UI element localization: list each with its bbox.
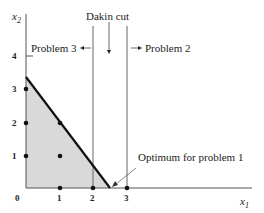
optimum-arrow xyxy=(116,168,136,184)
problem-2-label: Problem 2 xyxy=(145,42,191,54)
dakin-cut-label: Dakin cut xyxy=(86,10,129,22)
branch-and-bound-diagram: x2 x1 4 3 2 1 0 1 2 3 Dakin cut Problem … xyxy=(0,0,264,213)
y-tick-label-2: 2 xyxy=(12,118,17,128)
x-tick-label-3: 3 xyxy=(124,193,129,203)
problem-2-arrowhead xyxy=(138,46,142,50)
y-axis-label: x2 xyxy=(11,10,21,25)
dakin-cut-arrowhead xyxy=(107,50,111,54)
problem-3-label: Problem 3 xyxy=(31,42,77,54)
optimum-arrowhead xyxy=(112,181,118,187)
x-axis-label: x1 xyxy=(239,195,249,210)
problem-3-arrowhead xyxy=(80,46,84,50)
y-tick-label-1: 1 xyxy=(12,151,17,161)
y-tick-label-3: 3 xyxy=(12,84,17,94)
x-tick-label-2: 2 xyxy=(90,193,95,203)
x-tick-label-0: 0 xyxy=(15,193,20,203)
x-tick-label-1: 1 xyxy=(57,193,62,203)
y-tick-label-4: 4 xyxy=(12,51,17,61)
optimum-label: Optimum for problem 1 xyxy=(138,151,243,163)
